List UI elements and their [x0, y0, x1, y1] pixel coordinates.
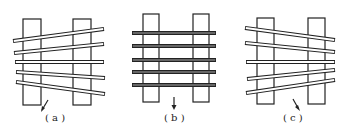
panel-a: [13, 19, 105, 112]
arrow-icon: [172, 97, 177, 110]
arrow-icon: [41, 100, 48, 112]
panel-c-label: ( c ): [283, 112, 303, 123]
panel-b-label: ( b ): [164, 112, 185, 123]
arrow-icon: [293, 99, 300, 111]
panel-c: [245, 18, 335, 111]
panel-a-label: ( a ): [45, 112, 65, 123]
panel-b: [132, 14, 216, 110]
